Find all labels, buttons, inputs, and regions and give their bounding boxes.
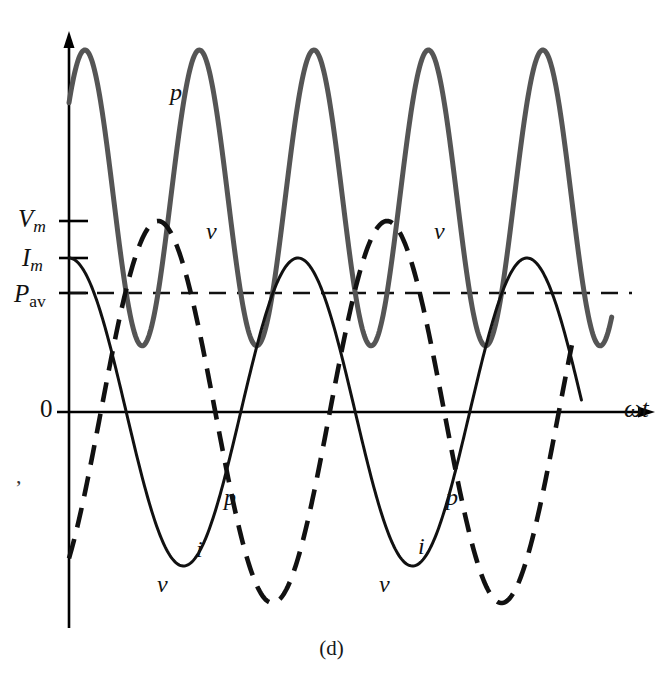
- curve-label-p-trough-2: p: [446, 485, 458, 509]
- y-axis-ticks: [59, 221, 88, 293]
- curve-label-v-trough-1: v: [157, 572, 168, 596]
- curve-label-p-top: p: [170, 80, 182, 104]
- y-axis: [64, 31, 75, 628]
- y-tick-label-pav: Pav: [14, 281, 46, 311]
- y-tick-label-vm: Vm: [18, 206, 46, 236]
- y-tick-label-im: Im: [22, 245, 43, 275]
- figure-caption: (d): [0, 636, 663, 661]
- waveform-plot: [0, 0, 663, 683]
- curve-label-v-trough-2: v: [379, 572, 390, 596]
- curve-label-p-trough-1: p: [224, 485, 236, 509]
- curve-label-v-peak-1: v: [206, 219, 217, 243]
- curve-label-i-trough-2: i: [418, 534, 425, 558]
- curve-label-i-trough-1: i: [196, 537, 203, 561]
- x-axis-label: ωt: [624, 396, 649, 421]
- power-waveform-figure: Vm Im Pav 0 ωt p v v p i v p i v , (d): [0, 0, 663, 683]
- stray-mark: ,: [16, 463, 22, 489]
- power-curve-p: [69, 50, 612, 346]
- origin-label: 0: [40, 396, 53, 421]
- curve-label-v-peak-2: v: [434, 219, 445, 243]
